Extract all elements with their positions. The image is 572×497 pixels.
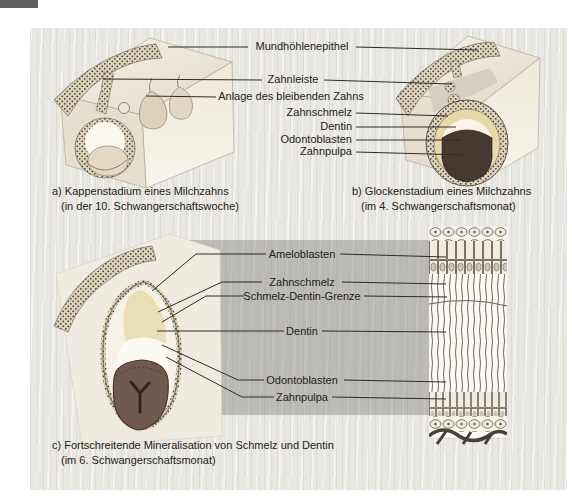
label-zahnschmelz-bottom: Zahnschmelz xyxy=(269,276,334,289)
label-zahnpulpa-bottom: Zahnpulpa xyxy=(276,391,328,404)
label-zahnpulpa-top: Zahnpulpa xyxy=(300,145,352,158)
caption-a-line1: a) Kappenstadium eines Milchzahns xyxy=(52,185,229,197)
page-corner-tab xyxy=(0,0,38,8)
book-page: { "figure": { "labels_top": [ {"id": "mu… xyxy=(0,0,572,497)
cap-stage-tooth-germ xyxy=(75,118,135,178)
label-ameloblasten: Ameloblasten xyxy=(269,248,336,261)
caption-b: b) Glockenstadium eines Milchzahns (im 4… xyxy=(352,184,531,214)
histology-column-illustration xyxy=(429,226,507,445)
cap-stage-illustration xyxy=(46,30,238,196)
caption-c-line2: (im 6. Schwangerschaftsmonat) xyxy=(52,453,334,468)
label-dentin-top: Dentin xyxy=(320,120,352,133)
mineralisation-illustration xyxy=(52,230,238,448)
stratum-intermedium-cells xyxy=(429,227,507,241)
bell-stage-tooth-germ xyxy=(426,100,508,186)
caption-a-line2: (in der 10. Schwangerschaftswoche) xyxy=(52,199,239,214)
label-schmelz-dentin-grenze: Schmelz-Dentin-Grenze xyxy=(243,290,360,303)
odontoblast-cells xyxy=(429,392,507,416)
ameloblast-cells xyxy=(429,241,507,274)
label-zahnschmelz-top: Zahnschmelz xyxy=(287,106,352,119)
caption-b-line2: (im 4. Schwangerschaftsmonat) xyxy=(352,199,531,214)
developing-tooth xyxy=(103,282,179,430)
label-mundhoehlenepithel: Mundhöhlenepithel xyxy=(256,40,349,53)
label-odontoblasten-bottom: Odontoblasten xyxy=(266,374,338,387)
caption-c-line1: c) Fortschreitende Mineralisation von Sc… xyxy=(52,439,334,451)
caption-b-line1: b) Glockenstadium eines Milchzahns xyxy=(352,185,531,197)
caption-a: a) Kappenstadium eines Milchzahns (in de… xyxy=(52,184,239,214)
label-zahnleiste: Zahnleiste xyxy=(268,73,319,86)
label-anlage-bleibender-zahn: Anlage des bleibenden Zahns xyxy=(218,90,364,103)
bell-stage-illustration xyxy=(392,30,544,202)
small-bud xyxy=(119,103,130,114)
enamel-dentin-tubules xyxy=(429,274,507,392)
caption-c: c) Fortschreitende Mineralisation von Sc… xyxy=(52,438,334,468)
label-dentin-bottom: Dentin xyxy=(286,325,318,338)
